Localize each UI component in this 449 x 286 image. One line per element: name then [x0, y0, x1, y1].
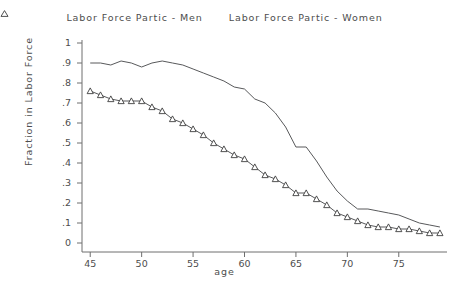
data-point-marker — [231, 152, 237, 158]
data-point-marker — [180, 120, 186, 126]
data-point-marker — [149, 104, 155, 110]
data-point-marker — [344, 214, 350, 220]
data-point-marker — [200, 132, 206, 138]
series-line-men — [90, 61, 440, 227]
axis-tickmarks — [77, 43, 399, 257]
data-point-marker — [283, 182, 289, 188]
data-point-marker — [108, 96, 114, 102]
data-point-marker — [159, 108, 165, 114]
data-point-marker — [272, 176, 278, 182]
axis-lines — [82, 40, 447, 252]
data-point-marker — [87, 88, 93, 94]
plot-area — [0, 0, 449, 286]
data-point-marker — [190, 126, 196, 132]
data-point-marker — [365, 222, 371, 228]
chart-container: Labor Force Partic - Men Labor Force Par… — [0, 0, 449, 286]
data-point-marker — [241, 156, 247, 162]
series-line-women — [90, 91, 440, 233]
data-point-marker — [313, 196, 319, 202]
data-point-marker — [221, 146, 227, 152]
data-point-marker — [324, 202, 330, 208]
data-point-marker — [97, 92, 103, 98]
data-point-marker — [355, 218, 361, 224]
